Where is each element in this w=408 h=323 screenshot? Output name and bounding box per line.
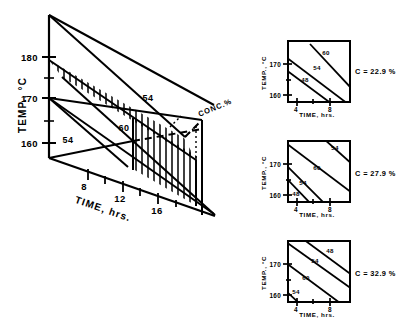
panel3-x-tick-4: 4 (294, 306, 298, 313)
panel3-contour-label-48: 48 (326, 247, 334, 254)
panel3-y-tick-170: 170 (269, 261, 281, 268)
panel-conc-32-9: TEMP., °C TIME, hrs. 170 160 4 8 48 54 6… (0, 0, 408, 323)
panel3-conc-label: C = 32.9 % (355, 269, 396, 278)
panel3-contour-label-60: 60 (302, 274, 310, 281)
panel3-y-tick-160: 160 (269, 292, 281, 299)
panel3-contour-label-54-lower: 54 (292, 288, 300, 295)
panel3-contour-label-54-upper: 54 (311, 257, 319, 264)
figure-response-surface-diagram: TEMP., °C 180 170 160 8 12 16 TIME, hrs.… (0, 0, 408, 323)
panel3-x-tick-8: 8 (328, 306, 332, 313)
panel3-y-axis-label: TEMP., °C (260, 256, 267, 290)
